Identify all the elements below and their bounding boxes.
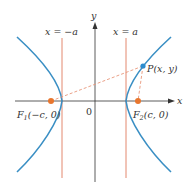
right-line-label: x = a: [113, 26, 138, 37]
focus-f1-coords: (−c, 0): [28, 109, 61, 120]
segment-f1-p: [51, 66, 143, 101]
focus-f2-coords: (c, 0): [144, 109, 169, 120]
left-line-label: x = −a: [45, 26, 78, 37]
x-axis-label: x: [177, 95, 183, 106]
y-axis-label: y: [90, 10, 97, 21]
origin-label: 0: [86, 106, 92, 117]
focus-f1-label: F1(−c, 0): [16, 109, 61, 122]
hyperbola-left-branch: [17, 37, 62, 172]
focus-f2-point: [135, 98, 141, 104]
hyperbola-diagram: y x 0 x = −a x = a P(x, y) F1(−c, 0) F2(…: [0, 0, 193, 182]
focus-f1-point: [48, 98, 54, 104]
x-axis-arrow-icon: [168, 99, 175, 104]
focus-f2-label: F2(c, 0): [132, 109, 169, 122]
y-axis-arrow-icon: [93, 22, 98, 29]
hyperbola-right-branch: [126, 37, 171, 172]
point-p-label: P(x, y): [146, 63, 178, 74]
point-p: [140, 63, 145, 68]
